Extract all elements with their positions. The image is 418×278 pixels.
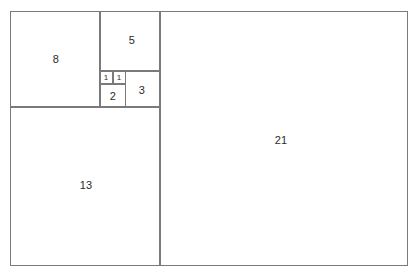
square-8-label: 8 bbox=[53, 54, 59, 65]
fibonacci-diagram-canvas: 2113853211 bbox=[0, 0, 418, 278]
square-21-label: 21 bbox=[275, 135, 288, 146]
square-1-right-label: 1 bbox=[117, 74, 121, 82]
square-2-label: 2 bbox=[110, 91, 116, 102]
square-5-label: 5 bbox=[129, 35, 135, 46]
square-1-left-label: 1 bbox=[104, 74, 108, 82]
square-13-label: 13 bbox=[80, 180, 93, 191]
square-3-label: 3 bbox=[139, 85, 145, 96]
